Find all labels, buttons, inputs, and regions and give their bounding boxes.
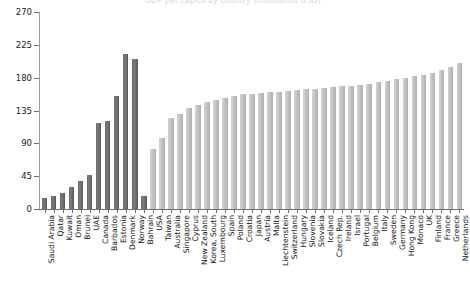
- bar: [177, 114, 183, 209]
- x-tick-label: Kuwait: [66, 215, 74, 240]
- x-tick-label: Saudi Arabia: [48, 215, 56, 263]
- x-tick-mark: [369, 210, 370, 213]
- x-tick-mark: [180, 210, 181, 213]
- x-tick-mark: [441, 210, 442, 213]
- x-tick-label: Japan: [255, 215, 263, 236]
- x-tick-mark: [117, 210, 118, 213]
- bar: [339, 86, 345, 209]
- x-tick-mark: [378, 210, 379, 213]
- bar: [285, 91, 291, 209]
- x-tick-mark: [225, 210, 226, 213]
- bar: [312, 89, 318, 209]
- x-tick-mark: [108, 210, 109, 213]
- y-tick-mark: [34, 209, 39, 210]
- x-tick-label: Oman: [75, 215, 83, 238]
- bar: [159, 138, 165, 210]
- bar: [321, 88, 327, 209]
- x-tick-mark: [396, 210, 397, 213]
- x-tick-mark: [387, 210, 388, 213]
- x-tick-mark: [342, 210, 343, 213]
- x-tick-label: Spain: [228, 215, 236, 236]
- y-tick-label: 0: [0, 205, 32, 214]
- x-tick-label: UAE: [93, 215, 101, 231]
- x-tick-mark: [459, 210, 460, 213]
- x-tick-mark: [252, 210, 253, 213]
- x-tick-mark: [450, 210, 451, 213]
- x-tick-mark: [207, 210, 208, 213]
- x-tick-mark: [360, 210, 361, 213]
- bar: [258, 93, 264, 209]
- x-tick-mark: [63, 210, 64, 213]
- bar: [394, 79, 400, 209]
- x-tick-label: Austria: [264, 215, 272, 242]
- x-tick-label: Australia: [174, 215, 182, 249]
- bar: [276, 92, 282, 209]
- bar: [60, 193, 66, 209]
- x-tick-label: Slovakia: [318, 215, 326, 247]
- bar: [213, 100, 219, 209]
- x-tick-label: Iceland: [327, 215, 335, 242]
- x-tick-mark: [72, 210, 73, 213]
- y-tick-mark: [34, 143, 39, 144]
- x-tick-label: Norway: [138, 215, 146, 244]
- bar: [303, 89, 309, 209]
- x-tick-mark: [432, 210, 433, 213]
- x-tick-mark: [234, 210, 235, 213]
- bar: [69, 187, 75, 209]
- x-tick-mark: [405, 210, 406, 213]
- bar: [96, 123, 102, 209]
- x-tick-label: Bahrain: [147, 215, 155, 244]
- bar: [357, 85, 363, 209]
- x-tick-mark: [306, 210, 307, 213]
- x-tick-label: Taiwan: [165, 215, 173, 241]
- x-tick-label: Estonia: [120, 215, 128, 243]
- bar: [123, 54, 129, 209]
- bar: [150, 149, 156, 209]
- x-tick-mark: [198, 210, 199, 213]
- x-tick-label: Luxembourg: [219, 215, 227, 262]
- chart-title: GDP per capita by country (thousands USD…: [0, 0, 466, 6]
- bar: [421, 75, 427, 209]
- x-tick-mark: [261, 210, 262, 213]
- y-tick-mark: [34, 78, 39, 79]
- x-tick-label: Denmark: [129, 215, 137, 250]
- x-tick-mark: [162, 210, 163, 213]
- y-tick-mark: [34, 45, 39, 46]
- x-tick-mark: [315, 210, 316, 213]
- x-tick-mark: [135, 210, 136, 213]
- x-tick-mark: [144, 210, 145, 213]
- bar: [204, 102, 210, 209]
- x-tick-mark: [297, 210, 298, 213]
- x-tick-mark: [414, 210, 415, 213]
- y-tick-label: 180: [0, 74, 32, 83]
- x-tick-label: Poland: [237, 215, 245, 240]
- bar: [267, 92, 273, 209]
- bar: [249, 94, 255, 209]
- bar: [114, 96, 120, 209]
- x-tick-mark: [54, 210, 55, 213]
- bar: [448, 67, 454, 209]
- y-tick-mark: [34, 176, 39, 177]
- bar: [231, 96, 237, 209]
- y-tick-mark: [34, 111, 39, 112]
- x-tick-label: Canada: [102, 215, 110, 244]
- x-tick-mark: [45, 210, 46, 213]
- y-tick-label: 225: [0, 41, 32, 50]
- bar: [439, 70, 445, 209]
- bar: [87, 175, 93, 209]
- x-tick-mark: [153, 210, 154, 213]
- bar: [348, 86, 354, 209]
- x-tick-label: Czech Rep.: [336, 215, 344, 257]
- x-tick-mark: [171, 210, 172, 213]
- x-tick-label: Singapore: [183, 215, 191, 253]
- x-tick-mark: [351, 210, 352, 213]
- y-tick-mark: [34, 12, 39, 13]
- x-tick-label: Qatar: [57, 215, 65, 236]
- bar: [412, 76, 418, 209]
- bar: [168, 118, 174, 209]
- x-tick-mark: [81, 210, 82, 213]
- y-tick-label: 45: [0, 172, 32, 181]
- bar: [330, 87, 336, 209]
- x-tick-mark: [216, 210, 217, 213]
